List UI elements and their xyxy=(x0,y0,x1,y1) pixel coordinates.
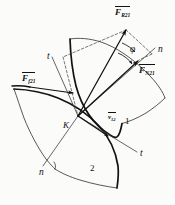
relative-velocity-symbol-wrap: v12 xyxy=(108,114,116,121)
friction-force-label: Ff21 xyxy=(22,74,35,83)
vector-overbar xyxy=(108,112,116,113)
body-two-label: 2 xyxy=(90,164,95,173)
relative-velocity-label: v12 xyxy=(108,114,116,121)
body-one-label: 1 xyxy=(125,117,130,126)
normal-force-symbol-wrap: FN21 xyxy=(139,66,155,75)
normal-force-subscript: N21 xyxy=(145,70,154,76)
resultant-force-subscript: R21 xyxy=(121,12,130,18)
contact-point-label: K xyxy=(63,121,69,130)
normal-axis-label-upper: n xyxy=(158,45,163,55)
normal-force-vector xyxy=(78,61,138,116)
body-two-outline xyxy=(14,89,117,188)
friction-force-subscript: f21 xyxy=(28,78,35,84)
tangent-axis-line xyxy=(52,57,137,152)
normal-axis-label-lower: n xyxy=(39,168,44,178)
body-two-contact-curve xyxy=(14,89,118,188)
tangent-axis-label-lower: t xyxy=(140,149,143,159)
friction-angle-label: φ xyxy=(130,45,135,55)
normal-force-label: FN21 xyxy=(139,66,155,75)
friction-force-symbol-wrap: Ff21 xyxy=(22,74,35,83)
physics-diagram-figure: FR21 FN21 Ff21 φ n n t t K v12 1 2 xyxy=(0,0,175,205)
vector-overbar xyxy=(22,72,35,73)
diagram-vector-canvas xyxy=(0,0,175,205)
relative-velocity-subscript: 12 xyxy=(111,117,116,122)
tangent-axis-label-upper: t xyxy=(47,52,50,62)
vector-overbar xyxy=(115,6,130,7)
vector-overbar xyxy=(139,64,155,65)
resultant-force-symbol-wrap: FR21 xyxy=(115,8,130,17)
resultant-force-label: FR21 xyxy=(115,8,130,17)
resultant-force-vector xyxy=(78,30,126,116)
